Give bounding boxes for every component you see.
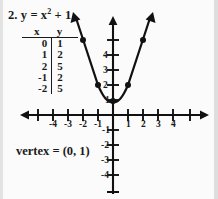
x-axis-label--2: -2: [79, 120, 87, 130]
x-axis-label--3: -3: [64, 120, 72, 130]
x-axis-label-1: 1: [126, 120, 131, 130]
parabola-left-arrowhead: [71, 12, 81, 23]
plot-point--2-5: [80, 37, 86, 43]
x-axis-label-2: 2: [141, 120, 146, 130]
y-axis-label-4: 4: [103, 51, 108, 61]
worksheet-problem-image: 2. y = x2 + 1 x y 0 1 1 2: [0, 0, 218, 199]
x-axis-label--4: -4: [49, 120, 57, 130]
y-axis-label--3: -3: [101, 156, 109, 166]
plot-point-0-1: [110, 98, 116, 104]
x-axis-label--1: -1: [94, 120, 102, 130]
y-axis-label-2: 2: [103, 81, 108, 91]
x-axis-label-3: 3: [156, 120, 161, 130]
plot-point-1-2: [125, 82, 131, 88]
plot-point--1-2: [95, 82, 101, 88]
y-axis-label--4: -4: [101, 171, 109, 181]
parabola-right-arrowhead: [146, 12, 156, 23]
y-axis-label--2: -2: [101, 141, 109, 151]
x-axis-right-arrowhead: [200, 111, 209, 120]
y-axis-label--1: -1: [102, 126, 110, 136]
x-axis-label-4: 4: [171, 120, 176, 130]
axes-group: [20, 16, 209, 194]
vertex-annotation: vertex = (0, 1): [16, 144, 90, 159]
y-axis-label-1: 1: [105, 96, 110, 106]
plot-point--2-5-right: [140, 37, 146, 43]
x-axis-left-arrowhead: [20, 111, 29, 120]
y-axis-label-3: 3: [103, 66, 108, 76]
y-axis-top-arrowhead: [109, 16, 118, 25]
